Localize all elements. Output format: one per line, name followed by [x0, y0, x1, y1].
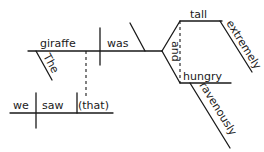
relative-verb-word: saw [42, 99, 63, 112]
relative-object-word: (that) [78, 99, 109, 112]
conjunction-word: and [169, 41, 182, 62]
adjective-hungry-word: hungry [183, 70, 222, 83]
adjective-tall-word: tall [190, 8, 207, 21]
subject-word: giraffe [40, 37, 76, 50]
relative-subject-word: we [13, 99, 29, 112]
sentence-diagram: giraffe was The and tall extremely hungr… [0, 0, 264, 152]
predicate-slant-line [130, 23, 145, 51]
modifier-extremely-word: extremely [223, 18, 264, 72]
verb-word: was [107, 37, 129, 50]
